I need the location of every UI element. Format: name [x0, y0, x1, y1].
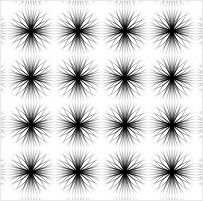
burst-node — [122, 28, 127, 33]
burst-node — [75, 28, 80, 33]
burst-node — [28, 75, 33, 80]
burst-node — [169, 28, 174, 33]
burst-node — [169, 75, 174, 80]
burst-node — [28, 169, 33, 174]
burst-node — [122, 75, 127, 80]
burst-node — [169, 122, 174, 127]
burst-node — [122, 169, 127, 174]
starburst-moire-pattern — [0, 0, 203, 201]
pattern-artboard: Radial Starburst Moire Grid — [0, 0, 203, 201]
burst-node — [28, 122, 33, 127]
burst-node — [75, 169, 80, 174]
burst-node — [169, 169, 174, 174]
burst-node — [122, 122, 127, 127]
burst-node — [75, 122, 80, 127]
burst-node — [28, 28, 33, 33]
burst-node — [75, 75, 80, 80]
